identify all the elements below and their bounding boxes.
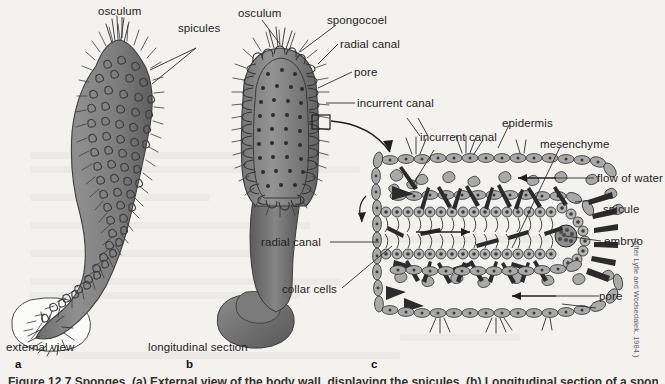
panel-a-title: external view [6, 341, 74, 353]
panel-a-artwork [12, 16, 196, 356]
label-osculum-a: osculum [98, 5, 142, 17]
figure-artwork [0, 0, 665, 384]
figure-credit: (After Lytle and Wodsedalek, 1984.) [632, 238, 641, 358]
label-flow-of-water: flow of water [597, 172, 663, 184]
label-radial-canal-b: radial canal [340, 38, 400, 50]
label-spicule: spicule [603, 203, 640, 215]
label-incurrent-canal-b: incurrent canal [357, 97, 434, 109]
label-osculum-b: osculum [238, 7, 282, 19]
label-collar-cells: collar cells [282, 283, 337, 295]
panel-c-artwork [330, 118, 624, 333]
sponge-figure: osculum spicules osculum spongocoel radi… [0, 0, 665, 384]
figure-caption: Figure 12.7 Sponges. (a) External view o… [8, 375, 658, 384]
label-spicules-a: spicules [178, 22, 220, 34]
label-pore-b: pore [354, 66, 377, 78]
label-radial-canal-c: radial canal [261, 236, 321, 248]
panel-letter-b: b [186, 358, 193, 370]
label-pore-c: pore [599, 290, 622, 302]
panel-b-title: longitudinal section [148, 341, 248, 353]
label-epidermis: epidermis [502, 117, 553, 129]
label-mesenchyme: mesenchyme [540, 138, 609, 150]
panel-letter-a: a [15, 358, 21, 370]
label-incurrent-canal-c: incurrent canal [420, 131, 497, 143]
label-spongocoel: spongocoel [327, 14, 387, 26]
panel-letter-c: c [371, 358, 377, 370]
